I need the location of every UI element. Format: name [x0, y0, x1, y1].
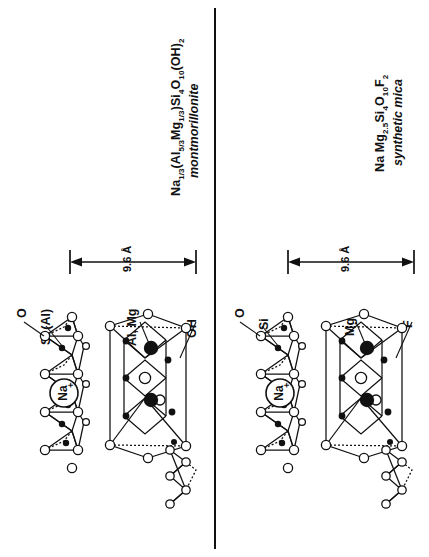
mineral-name-montmorillonite: montmorillonite [188, 84, 201, 178]
mineral-name-synthetic-mica: synthetic mica [392, 79, 405, 166]
formula-text-montmorillonite: Na1/3(Al5/3Mg1/3)Si4O10(OH)2 [169, 39, 183, 197]
svg-text:+: + [66, 382, 76, 387]
formula-montmorillonite: Na1/3(Al5/3Mg1/3)Si4O10(OH)2 [170, 39, 186, 197]
formula-synthetic-mica: Na Mg2.5Si4O10F2 [374, 75, 390, 172]
crystal-structure-synthetic-mica [216, 300, 429, 550]
formula-text-synthetic-mica: Na Mg2.5Si4O10F2 [373, 75, 387, 172]
figure-canvas: Na1/3(Al5/3Mg1/3)Si4O10(OH)2 montmorillo… [0, 0, 429, 557]
spacing-arrow-montmorillonite [66, 249, 200, 275]
spacing-arrow-synthetic-mica [284, 249, 418, 275]
svg-text:+: + [282, 382, 292, 387]
interlayer-cation-synthetic-mica: Na + [263, 376, 297, 410]
interlayer-cation-montmorillonite: Na + [47, 376, 81, 410]
crystal-structure-montmorillonite [0, 300, 214, 550]
